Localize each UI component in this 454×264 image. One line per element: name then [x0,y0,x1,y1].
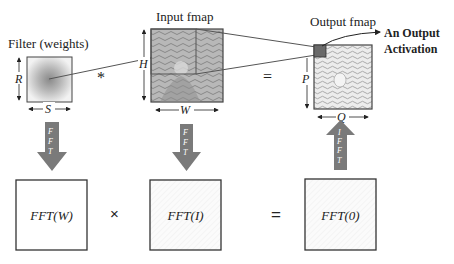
ifft-letter-2: F [336,137,342,146]
fft-filter-letter-1: F [47,127,53,136]
fft-input-letter-2: F [182,138,188,147]
ifft-letter-3: F [336,146,342,155]
fft-input-letter-3: T [183,148,188,157]
convolution-operator: * [97,69,105,86]
callout-line-2: Activation [384,42,438,56]
output-title: Output fmap [310,14,376,29]
output-activation-square [314,45,326,57]
fft-o-label: FFT(0) [320,208,359,223]
filter-width-label: S [45,102,51,116]
equals-operator-top: = [263,68,272,85]
callout-line-1: An Output [384,26,440,40]
ifft-letter-1: I [337,128,341,137]
filter-box [27,57,72,102]
fft-filter-letter-2: F [47,137,53,146]
fft-arrow-filter: F F T [37,122,67,171]
filter-height-label: R [14,72,23,86]
fft-arrow-input: F F T [172,124,201,171]
equals-operator-bottom: = [271,205,281,224]
fft-i-label: FFT(I) [166,208,203,223]
activation-callout-arrow [322,32,380,46]
input-height-label: H [138,57,149,71]
filter-title: Filter (weights) [8,36,89,51]
fft-convolution-diagram: Filter (weights) R S * Input fmap H W = … [0,0,454,264]
input-title: Input fmap [156,9,213,24]
fft-w-label: FFT(W) [29,208,73,223]
fft-input-letter-1: F [182,128,188,137]
ifft-arrow-output: I F F T [326,120,355,170]
output-height-label: P [301,72,310,86]
fft-filter-letter-3: T [48,147,53,156]
ifft-letter-4: T [337,156,342,165]
multiply-operator: × [110,205,119,222]
input-width-label: W [180,103,191,117]
